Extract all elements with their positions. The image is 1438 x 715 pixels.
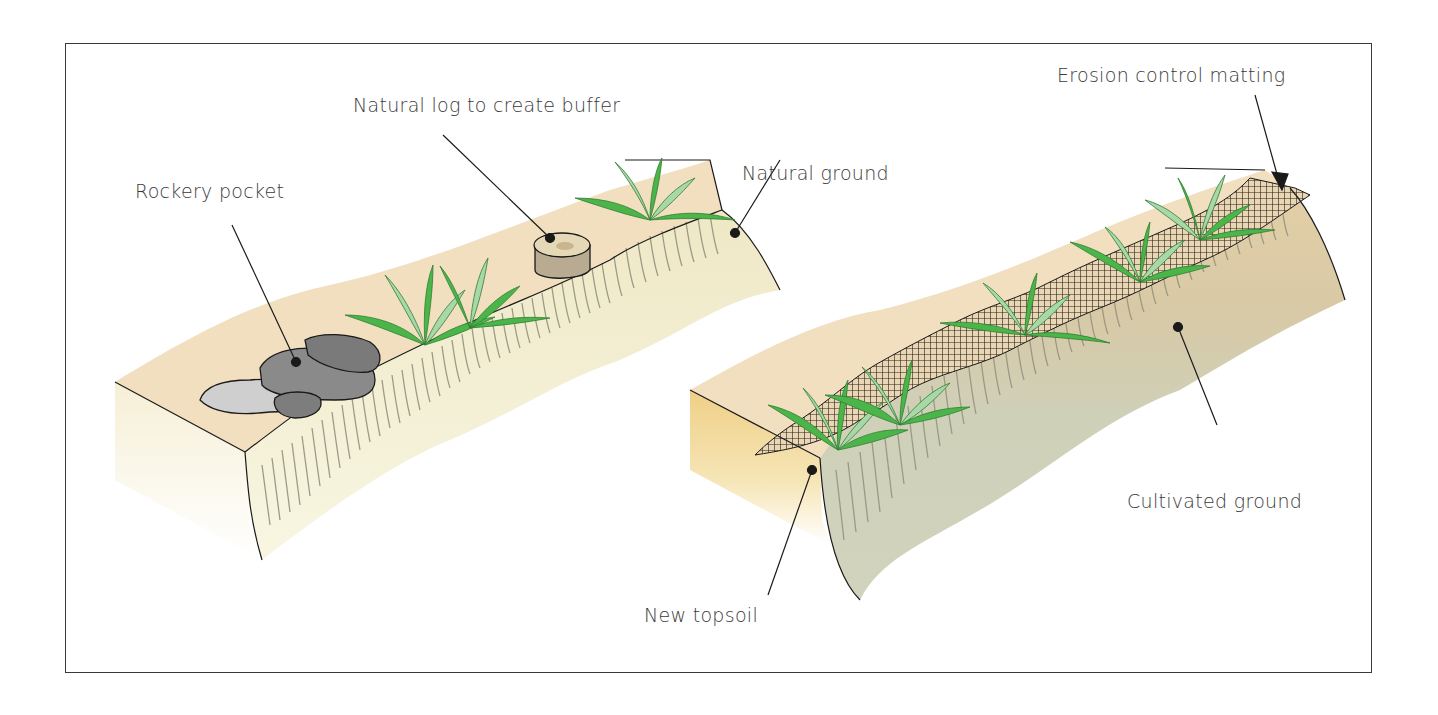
label-cultivated-ground: Cultivated ground — [1127, 490, 1302, 512]
label-new-topsoil: New topsoil — [644, 604, 758, 626]
label-rockery-pocket: Rockery pocket — [135, 180, 284, 202]
label-erosion-matting: Erosion control matting — [1057, 64, 1285, 86]
natural-slope-block — [115, 160, 780, 560]
natural-log — [534, 233, 590, 278]
label-natural-log: Natural log to create buffer — [353, 94, 620, 116]
label-natural-ground: Natural ground — [742, 162, 889, 184]
